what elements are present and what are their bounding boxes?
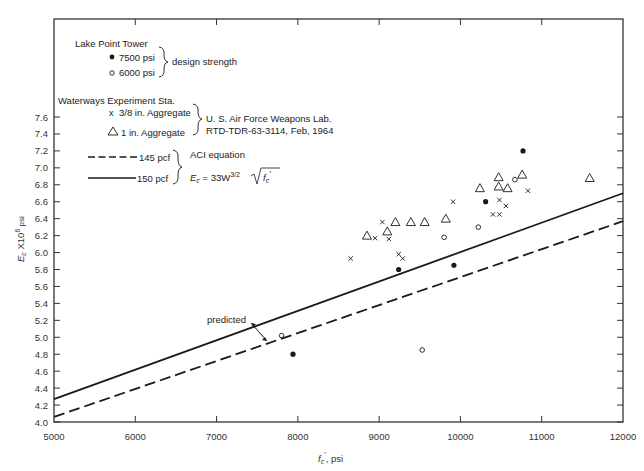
y-tick-label: 4.2 [35, 400, 48, 411]
brace-icon [193, 104, 202, 135]
x-tick-label: 5000 [43, 431, 64, 442]
brace-icon [173, 150, 182, 184]
y-tick-label: 5.6 [35, 281, 48, 292]
x-point [497, 212, 501, 216]
y-tick-label: 7.4 [35, 128, 48, 139]
x-tick-label: 7000 [206, 431, 227, 442]
y-tick-label: 6.6 [35, 196, 48, 207]
y-tick-label: 6.0 [35, 247, 48, 258]
legend-lake-7500: 7500 psi [119, 52, 155, 63]
x-tick-label: 12000 [610, 431, 636, 442]
triangle-point [362, 231, 371, 239]
open-circle-point [476, 225, 481, 230]
open-circle-point [513, 177, 518, 182]
triangle-point [441, 214, 450, 222]
triangle-point [383, 227, 392, 235]
x-tick-label: 8000 [287, 431, 308, 442]
open-circle-icon [110, 71, 114, 75]
triangle-point [475, 184, 484, 192]
x-tick-label: 11000 [529, 431, 555, 442]
filled-circle-point [451, 263, 456, 268]
open-circle-point [279, 333, 284, 338]
y-axis-title: Ec X106 psi [14, 216, 27, 262]
aci-equation-lines [54, 193, 623, 417]
triangle-icon [108, 127, 118, 135]
plot-frame [54, 19, 623, 422]
filled-circle-point [483, 199, 488, 204]
legend-aci-equation: Ec = 33W3/2 fc′ [190, 168, 280, 184]
triangle-point [406, 218, 415, 226]
filled-circle-icon [110, 55, 115, 60]
x-point [491, 212, 495, 216]
legend-aci-title: ACI equation [190, 149, 245, 160]
x-point [401, 256, 405, 260]
legend-wes-38: 3/8 in. Aggregate [119, 107, 191, 118]
data-points [279, 148, 594, 357]
y-tick-label: 6.2 [35, 230, 48, 241]
aci-150-pcf-line [54, 193, 623, 399]
y-tick-label: 5.8 [35, 264, 48, 275]
legend-design-strength: design strength [172, 56, 237, 67]
y-tick-label: 6.4 [35, 213, 48, 224]
x-axis-title: fc′, psi [318, 450, 343, 465]
filled-circle-point [520, 148, 525, 153]
eq-prime: ′ [269, 169, 271, 178]
legend-lake-title: Lake Point Tower [75, 38, 148, 49]
triangle-point [391, 218, 400, 226]
legend-150: 150 pcf [137, 173, 169, 184]
y-tick-label: 7.6 [35, 112, 48, 123]
x-tick-label: 6000 [125, 431, 146, 442]
y-tick-label: 7.0 [35, 162, 48, 173]
eq-exp: 3/2 [230, 171, 240, 178]
svg-text:Ec = 33W3/2: Ec = 33W3/2 [190, 171, 240, 184]
legend-lake-6000: 6000 psi [119, 67, 155, 78]
y-tick-label: 5.0 [35, 332, 48, 343]
eq-mid: = 33W [200, 172, 230, 183]
x-point [348, 256, 352, 260]
y-tick-label: 5.4 [35, 298, 48, 309]
filled-circle-point [396, 267, 401, 272]
arrow-head-icon [262, 337, 267, 341]
x-point [504, 204, 508, 208]
x-point [451, 200, 455, 204]
triangle-point [494, 182, 503, 190]
triangle-point [585, 174, 594, 182]
predicted-label: predicted [207, 314, 246, 325]
legend-usaf-line2: RTD-TDR-63-3114, Feb, 1964 [206, 125, 333, 136]
predicted-annotation: predicted [207, 314, 267, 341]
y-tick-label: 5.2 [35, 315, 48, 326]
filled-circle-point [290, 352, 295, 357]
chart-figure: 50006000700080009000100001100012000 4.04… [0, 0, 644, 471]
brace-icon [159, 47, 168, 77]
legend-wes-1: 1 in. Aggregate [121, 127, 185, 138]
legend-wes-title: Waterways Experiment Sta. [58, 95, 175, 106]
aci-145-pcf-line [54, 221, 623, 417]
x-point [373, 236, 377, 240]
x-axis: 50006000700080009000100001100012000 [43, 19, 636, 442]
legend-usaf-line1: U. S. Air Force Weapons Lab. [206, 113, 332, 124]
x-point [387, 237, 391, 241]
triangle-point [503, 184, 512, 192]
x-tick-label: 10000 [447, 431, 473, 442]
y-tick-label: 4.4 [35, 383, 48, 394]
y-tick-label: 4.8 [35, 349, 48, 360]
legend-145: 145 pcf [139, 152, 171, 163]
triangle-point [518, 170, 527, 178]
triangle-point [420, 218, 429, 226]
eq-rad-sub: c [266, 177, 270, 184]
open-circle-point [420, 348, 425, 353]
x-marker-icon: x [109, 108, 114, 118]
open-circle-point [442, 235, 447, 240]
legend: Lake Point Tower 7500 psi 6000 psi desig… [58, 38, 333, 184]
x-point [497, 198, 501, 202]
x-tick-label: 9000 [369, 431, 390, 442]
x-point [396, 252, 400, 256]
x-point [526, 189, 530, 193]
y-tick-label: 6.8 [35, 179, 48, 190]
y-tick-label: 4.6 [35, 366, 48, 377]
x-point [380, 220, 384, 224]
y-axis: 4.04.24.44.64.85.05.25.45.65.86.06.26.46… [35, 112, 623, 428]
y-tick-label: 7.2 [35, 145, 48, 156]
svg-text:fc′: fc′ [263, 169, 271, 184]
y-tick-label: 4.0 [35, 417, 48, 428]
